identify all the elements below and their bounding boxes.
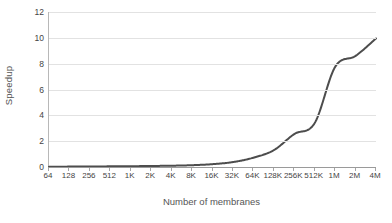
plot-area [48, 12, 376, 167]
y-tick-label: 10 [20, 34, 44, 43]
y-axis-title-text: Speedup [4, 65, 15, 104]
x-tick-label: 2K [145, 172, 155, 180]
chart-screenshot: Speedup 024681012 641282565121K2K4K8K16K… [0, 0, 392, 223]
x-tick-label: 256 [82, 172, 95, 180]
gridline [49, 12, 376, 13]
x-tick-label: 4M [369, 172, 380, 180]
x-tick-label: 128K [263, 172, 282, 180]
x-tick-label: 64 [44, 172, 53, 180]
gridline [49, 141, 376, 142]
y-tick-label: 2 [20, 137, 44, 146]
y-tick-label: 8 [20, 59, 44, 68]
x-tick-label: 32K [225, 172, 239, 180]
y-tick-label: 12 [20, 8, 44, 17]
x-tick-label: 4K [166, 172, 176, 180]
x-tick-label: 64K [245, 172, 259, 180]
gridline [49, 90, 376, 91]
x-tick-label: 512K [304, 172, 323, 180]
x-tick-label: 512 [103, 172, 116, 180]
x-tick-label: 1K [125, 172, 135, 180]
x-tick-label: 8K [186, 172, 196, 180]
y-tick-label: 4 [20, 111, 44, 120]
y-tick-label: 6 [20, 85, 44, 94]
y-tick-label: 0 [20, 163, 44, 172]
y-axis-tick-labels: 024681012 [20, 0, 44, 170]
gridline [49, 38, 376, 39]
x-tick-label: 2M [349, 172, 360, 180]
speedup-line-series [49, 38, 376, 166]
x-tick-label: 16K [204, 172, 218, 180]
x-axis-title: Number of membranes [48, 196, 375, 207]
gridline [49, 64, 376, 65]
x-tick-label: 256K [284, 172, 303, 180]
y-axis-title: Speedup [0, 0, 18, 170]
x-tick-label: 1M [329, 172, 340, 180]
x-tick-label: 128 [62, 172, 75, 180]
gridline [49, 115, 376, 116]
